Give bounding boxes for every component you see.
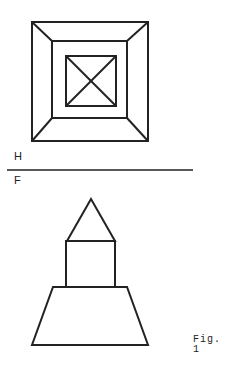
figure-caption: Fig. 1 <box>193 335 234 355</box>
base-trapezoid <box>32 287 148 345</box>
corner-edge-bl <box>32 118 52 141</box>
orthographic-drawing <box>0 0 234 367</box>
corner-edge-br <box>127 118 148 141</box>
top-view <box>32 22 148 141</box>
front-view-label: F <box>14 175 21 186</box>
roof-triangle <box>67 199 115 241</box>
body-rectangle <box>66 241 115 287</box>
top-view-label: H <box>14 151 22 162</box>
corner-edge-tl <box>32 22 52 41</box>
corner-edge-tr <box>127 22 148 41</box>
front-view <box>32 199 148 345</box>
